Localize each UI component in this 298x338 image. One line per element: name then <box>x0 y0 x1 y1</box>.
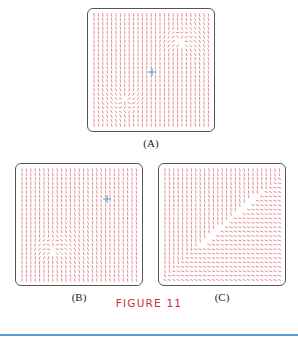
vector-field <box>88 9 216 133</box>
vector-field <box>16 164 144 287</box>
bottom-rule <box>0 334 298 336</box>
vector-field <box>159 164 287 287</box>
figure-caption: FIGURE 11 <box>0 297 298 309</box>
panel-c <box>158 163 286 286</box>
panel-b <box>15 163 143 286</box>
panel-a-label: (A) <box>131 137 171 149</box>
panel-a <box>87 8 215 132</box>
